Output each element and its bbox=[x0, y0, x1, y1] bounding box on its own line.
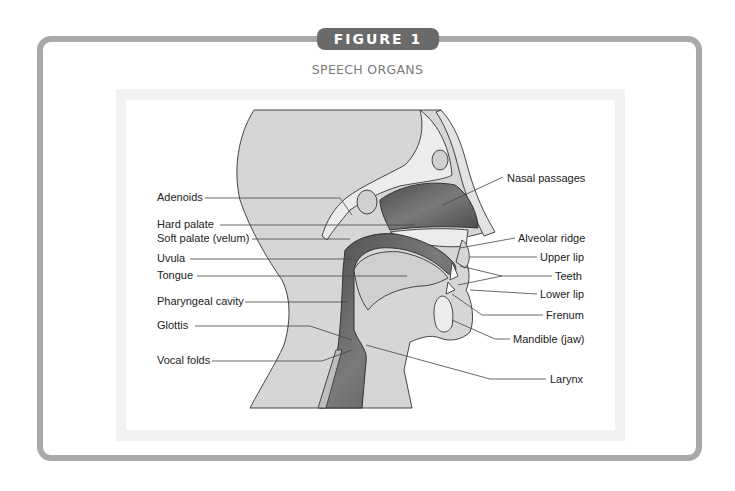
label-larynx: Larynx bbox=[550, 373, 584, 385]
label-lower-lip: Lower lip bbox=[540, 288, 584, 300]
label-adenoids: Adenoids bbox=[157, 191, 203, 203]
mandible bbox=[434, 296, 453, 332]
adenoid-cavity bbox=[357, 190, 377, 214]
label-hard-palate: Hard palate bbox=[157, 218, 214, 230]
sinus-cavity bbox=[432, 150, 448, 170]
label-mandible: Mandible (jaw) bbox=[513, 333, 585, 345]
label-upper-lip: Upper lip bbox=[540, 251, 584, 263]
label-nasal-passages: Nasal passages bbox=[507, 172, 586, 184]
label-teeth: Teeth bbox=[555, 270, 582, 282]
label-tongue: Tongue bbox=[157, 269, 193, 281]
label-pharyngeal-cavity: Pharyngeal cavity bbox=[157, 295, 244, 307]
label-uvula: Uvula bbox=[157, 252, 186, 264]
label-vocal-folds: Vocal folds bbox=[157, 354, 211, 366]
label-glottis: Glottis bbox=[157, 319, 189, 331]
label-frenum: Frenum bbox=[546, 309, 584, 321]
label-alveolar-ridge: Alveolar ridge bbox=[518, 232, 585, 244]
speech-organs-diagram: Adenoids Hard palate Soft palate (velum)… bbox=[0, 0, 735, 491]
label-soft-palate: Soft palate (velum) bbox=[157, 232, 249, 244]
